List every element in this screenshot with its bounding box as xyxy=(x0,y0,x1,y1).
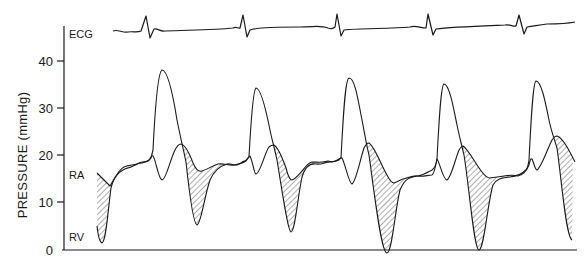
ecg-label: ECG xyxy=(69,29,93,40)
rv-label: RV xyxy=(69,232,84,243)
y-tick-label-0: 0 xyxy=(29,244,53,257)
y-tick-label-40: 40 xyxy=(29,55,53,68)
y-tick-label-20: 20 xyxy=(29,149,53,162)
y-axis-title: PRESSURE (mmHg) xyxy=(15,92,30,219)
rv-pressure-trace xyxy=(97,70,572,253)
y-ticks xyxy=(57,61,64,202)
ecg-trace xyxy=(113,14,575,38)
ra-label: RA xyxy=(69,170,84,181)
y-tick-label-10: 10 xyxy=(29,196,53,209)
y-tick-label-30: 30 xyxy=(29,102,53,115)
hatched-area-ra-exceeds-rv xyxy=(97,0,575,253)
